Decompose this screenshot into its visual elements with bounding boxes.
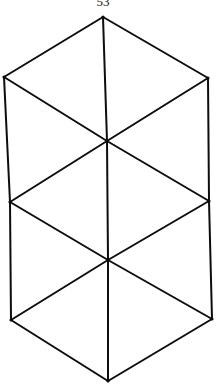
edge-middle-left-to-center-lower xyxy=(10,202,108,260)
vertex-middle-right xyxy=(207,199,210,202)
edge-top-to-upper-right xyxy=(103,17,208,78)
edge-middle-right-to-lower-right xyxy=(209,201,212,319)
edge-center-lower-to-lower-right xyxy=(108,260,212,319)
vertex-top xyxy=(101,15,104,18)
edge-top-to-upper-left xyxy=(4,17,103,77)
edge-upper-left-to-middle-left xyxy=(4,77,10,202)
edge-lower-left-to-bottom xyxy=(11,320,108,381)
vertex-bottom xyxy=(106,379,109,382)
edge-lower-right-to-bottom xyxy=(108,319,212,381)
vertex-center-lower xyxy=(106,258,109,261)
edge-center-upper-to-center-lower xyxy=(107,141,108,260)
edge-center-upper-to-middle-left xyxy=(10,141,107,202)
edge-upper-right-to-center-upper xyxy=(107,78,208,141)
vertex-lower-left xyxy=(9,318,12,321)
edge-upper-right-to-middle-right xyxy=(208,78,209,201)
vertex-center-upper xyxy=(105,139,108,142)
vertex-lower-right xyxy=(210,317,213,320)
stacked-hexagons-figure xyxy=(0,0,216,384)
edge-upper-left-to-center-upper xyxy=(4,77,107,141)
edge-middle-left-to-lower-left xyxy=(10,202,11,320)
vertex-upper-right xyxy=(206,76,209,79)
edge-middle-right-to-center-lower xyxy=(108,201,209,260)
vertex-upper-left xyxy=(2,75,5,78)
figure-edges xyxy=(4,17,212,381)
edge-center-lower-to-lower-left xyxy=(11,260,108,320)
edge-top-to-center-upper xyxy=(103,17,107,141)
edge-center-upper-to-middle-right xyxy=(107,141,209,201)
vertex-middle-left xyxy=(8,200,11,203)
